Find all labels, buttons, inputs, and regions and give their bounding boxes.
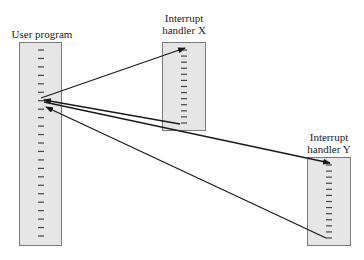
arrow-user-to-handler-x	[41, 48, 185, 98]
handler-y-instruction-ticks	[326, 165, 332, 238]
arrow-handler-y-return	[46, 107, 326, 238]
user-program-instruction-ticks	[38, 50, 44, 236]
arrow-handler-x-return	[44, 100, 180, 124]
diagram-overlay	[0, 0, 364, 260]
handler-x-instruction-ticks	[181, 50, 187, 123]
